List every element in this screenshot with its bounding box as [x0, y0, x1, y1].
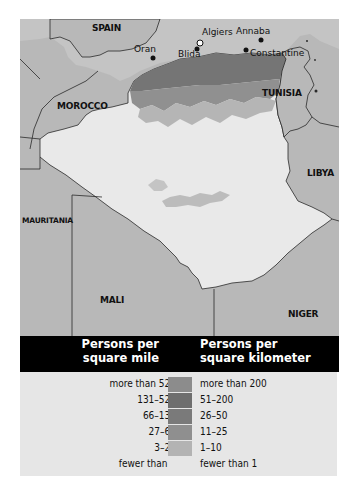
- legend-swatch: [168, 457, 192, 472]
- population-density-map: SPAIN MOROCCO TUNISIA LIBYA MAURITANIA M…: [20, 19, 339, 336]
- city-dot-icon: [244, 48, 249, 53]
- legend-km-value: 11–25: [200, 424, 227, 440]
- legend-row: 131–520 51–200: [20, 392, 337, 408]
- legend-header-square-mile: Persons per square mile: [82, 337, 159, 365]
- city-constantine: Constantine: [244, 48, 305, 59]
- legend-swatch: [168, 393, 192, 408]
- header-line: square mile: [82, 351, 159, 365]
- header-line: Persons per: [200, 337, 311, 351]
- header-line: square kilometer: [200, 351, 311, 365]
- legend-header-square-km: Persons per square kilometer: [200, 337, 311, 365]
- country-label-libya: LIBYA: [307, 168, 334, 178]
- legend-row: more than 520 more than 200: [20, 376, 337, 392]
- island: [306, 40, 308, 42]
- island: [315, 90, 318, 93]
- legend-swatch: [168, 377, 192, 392]
- legend-km-value: 51–200: [200, 392, 233, 408]
- legend-row: fewer than 3 fewer than 1: [20, 456, 337, 472]
- city-dot-icon: [151, 56, 156, 61]
- country-label-morocco: MOROCCO: [57, 101, 108, 111]
- header-line: Persons per: [82, 337, 159, 351]
- city-label-constantine: Constantine: [250, 48, 305, 58]
- legend-km-value: 1–10: [200, 440, 222, 456]
- legend-body: more than 520 more than 200 131–520 51–2…: [20, 372, 337, 476]
- country-label-tunisia: TUNISIA: [262, 88, 302, 98]
- country-label-mauritania: MAURITANIA: [22, 216, 73, 225]
- legend-swatch: [168, 441, 192, 456]
- island: [314, 59, 316, 61]
- legend-km-value: fewer than 1: [200, 456, 257, 472]
- country-label-mali: MALI: [100, 295, 124, 305]
- city-blida: Blida: [178, 47, 200, 60]
- country-label-niger: NIGER: [288, 309, 319, 319]
- capital-star-icon: [197, 40, 203, 46]
- legend-mile-value: more than 520: [109, 376, 176, 392]
- legend-swatch: [168, 409, 192, 424]
- city-label-algiers: Algiers: [202, 27, 233, 37]
- legend-row: 3–26 1–10: [20, 440, 337, 456]
- legend-header: Persons per square mile Persons per squa…: [20, 336, 339, 372]
- city-label-blida: Blida: [178, 49, 200, 59]
- legend-swatch: [168, 425, 192, 440]
- map-svg: SPAIN MOROCCO TUNISIA LIBYA MAURITANIA M…: [20, 19, 339, 336]
- legend-km-value: 26–50: [200, 408, 227, 424]
- city-label-annaba: Annaba: [236, 26, 270, 36]
- legend-row: 27–65 11–25: [20, 424, 337, 440]
- legend-row: 66–130 26–50: [20, 408, 337, 424]
- country-label-spain: SPAIN: [92, 23, 121, 33]
- city-dot-icon: [259, 38, 264, 43]
- legend-km-value: more than 200: [200, 376, 267, 392]
- city-label-oran: Oran: [134, 44, 156, 54]
